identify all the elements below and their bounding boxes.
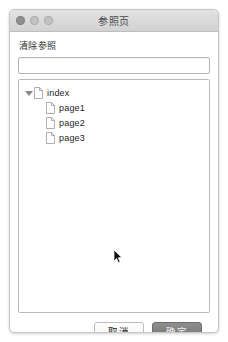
document-icon xyxy=(34,87,43,99)
tree-item-page1[interactable]: page1 xyxy=(19,100,209,115)
dialog-body: 清除参照 index xyxy=(10,32,218,333)
tree-item-label: page3 xyxy=(59,132,85,144)
dialog-window: 参照页 清除参照 index xyxy=(9,9,219,333)
tree-item-index[interactable]: index xyxy=(19,85,209,100)
tree-item-page2[interactable]: page2 xyxy=(19,115,209,130)
document-icon xyxy=(46,132,55,144)
window-title: 参照页 xyxy=(10,13,218,28)
tree-item-label: page1 xyxy=(59,102,85,114)
document-icon xyxy=(46,102,55,114)
cancel-button[interactable]: 取消 xyxy=(94,322,144,333)
chevron-down-icon[interactable] xyxy=(24,88,34,98)
dialog-footer: 取消 确定 xyxy=(18,322,210,333)
tree-item-label: index xyxy=(47,87,70,99)
confirm-button[interactable]: 确定 xyxy=(152,322,202,333)
reference-filter-input[interactable] xyxy=(18,57,210,74)
title-bar[interactable]: 参照页 xyxy=(10,10,218,32)
tree-item-label: page2 xyxy=(59,117,85,129)
clear-reference-label: 清除参照 xyxy=(19,39,210,52)
document-icon xyxy=(46,117,55,129)
mouse-pointer-icon xyxy=(113,249,123,264)
tree-item-page3[interactable]: page3 xyxy=(19,130,209,145)
reference-tree-list[interactable]: index page1 page2 xyxy=(18,79,210,313)
